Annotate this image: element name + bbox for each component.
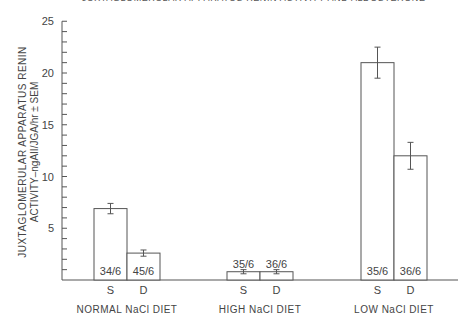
y-tick-label: 20 [42,67,54,79]
n-label: 36/6 [266,258,287,270]
n-label: 45/6 [133,265,154,277]
bar-chart: 510152025JUXTAGLOMERULAR APPARATUS RENIN… [0,0,474,321]
bar [394,156,427,280]
n-label: 34/6 [100,265,121,277]
y-tick-label: 10 [42,171,54,183]
y-tick-label: 25 [42,15,54,27]
group-label: NORMAL NaCl DIET [77,304,178,315]
category-label: S [240,284,247,296]
category-label: D [273,284,281,296]
category-label: D [140,284,148,296]
n-label: 36/6 [400,265,421,277]
group-label: LOW NaCl DIET [354,304,434,315]
n-label: 35/6 [233,258,254,270]
n-label: 35/6 [367,265,388,277]
category-label: S [107,284,114,296]
y-axis-label: JUXTAGLOMERULAR APPARATUS RENIN [17,46,28,258]
category-label: S [374,284,381,296]
y-tick-label: 15 [42,119,54,131]
bar [361,63,394,280]
y-tick-label: 5 [48,222,54,234]
category-label: D [407,284,415,296]
group-label: HIGH NaCl DIET [219,304,302,315]
y-axis-label: ACTIVITY–ngAII/JGA/hr ± SEM [29,82,40,223]
